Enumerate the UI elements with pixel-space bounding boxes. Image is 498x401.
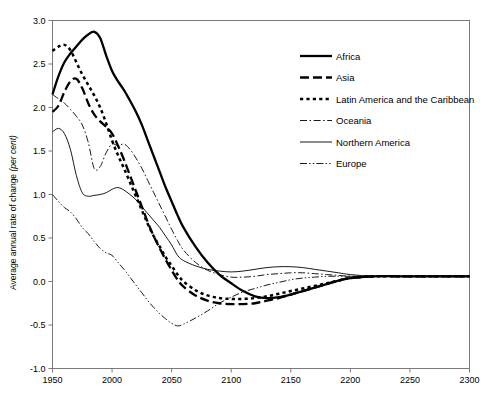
legend-label-northern-america[interactable]: Northern America (336, 137, 411, 148)
y-tick-label: -1.0 (30, 364, 46, 374)
legend-label-latin-america-and-the-caribbean[interactable]: Latin America and the Caribbean (336, 94, 474, 105)
y-tick-label: 0.5 (33, 233, 46, 243)
y-tick-label: 3.0 (33, 16, 46, 26)
series-line-africa (53, 32, 470, 298)
x-tick-label: 2150 (281, 375, 301, 385)
legend-label-europe[interactable]: Europe (336, 158, 367, 169)
plot-area-frame (53, 21, 470, 369)
series-line-europe (53, 195, 470, 326)
chart-container: -1.0-0.50.00.51.01.52.02.53.0 1950200020… (0, 0, 498, 401)
y-tick-label: 2.0 (33, 103, 46, 113)
x-tick-label: 2000 (102, 375, 122, 385)
x-tick-label: 2300 (459, 375, 479, 385)
y-tick-label: 0.0 (33, 277, 46, 287)
svg-text:Average annual rate of change: Average annual rate of change (per cent) (8, 135, 18, 290)
series-line-latin-america-and-the-caribbean (53, 45, 470, 299)
y-axis-title: Average annual rate of change (per cent) (8, 135, 18, 290)
x-tick-label: 1950 (42, 375, 62, 385)
y-tick-label: 1.5 (33, 146, 46, 156)
y-tick-label: 2.5 (33, 59, 46, 69)
y-axis: -1.0-0.50.00.51.01.52.02.53.0 (30, 16, 53, 374)
series-line-oceania (53, 94, 470, 277)
x-tick-label: 2250 (400, 375, 420, 385)
y-tick-label: -0.5 (30, 320, 46, 330)
x-tick-label: 2100 (221, 375, 241, 385)
series-line-asia (53, 78, 470, 304)
line-chart: -1.0-0.50.00.51.01.52.02.53.0 1950200020… (0, 0, 498, 401)
series-line-northern-america (53, 128, 470, 276)
y-tick-label: 1.0 (33, 190, 46, 200)
series-layer (53, 32, 470, 326)
legend-label-asia[interactable]: Asia (336, 72, 355, 83)
x-axis: 19502000205021002150220022502300 (42, 369, 479, 385)
x-tick-label: 2200 (340, 375, 360, 385)
legend-label-oceania[interactable]: Oceania (336, 115, 372, 126)
legend-label-africa[interactable]: Africa (336, 51, 361, 62)
x-tick-label: 2050 (162, 375, 182, 385)
chart-legend: AfricaAsiaLatin America and the Caribbea… (300, 51, 474, 170)
